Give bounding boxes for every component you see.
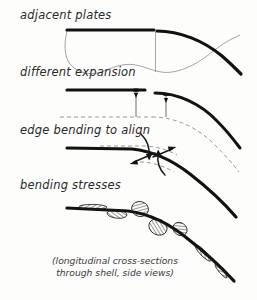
reference-curve-dashed [152, 117, 239, 172]
label-edge-bending-to-align: edge bending to align [20, 124, 150, 137]
original-position-dash-lower [140, 162, 174, 172]
figure-caption: (longitudinal cross-sections through she… [0, 255, 230, 280]
stress-lobe-4 [146, 216, 170, 239]
caption-line-1: (longitudinal cross-sections [0, 255, 230, 267]
label-bending-stresses: bending stresses [20, 179, 121, 192]
expansion-gap-left-arrow-top [133, 89, 139, 92]
diagram-canvas: adjacent plates different expansion edge… [0, 0, 257, 300]
caption-line-2: through shell, side views) [0, 267, 230, 279]
label-different-expansion: different expansion [20, 66, 136, 79]
shear-arrow-left-shaft [134, 153, 155, 162]
right-plate-curved [155, 93, 240, 148]
stress-lobe-1 [79, 204, 107, 210]
expansion-gap-right-arrow-top [163, 93, 168, 96]
expansion-gap-left-arrowhead [134, 93, 138, 98]
expansion-gap-right-arrowhead [164, 98, 168, 103]
right-plate-top-surface [157, 31, 241, 74]
label-adjacent-plates: adjacent plates [20, 9, 112, 22]
stress-lobe-5 [170, 220, 189, 239]
